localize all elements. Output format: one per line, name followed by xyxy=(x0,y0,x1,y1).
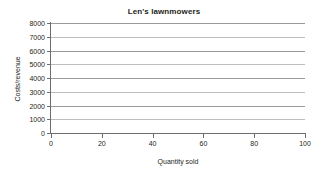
x-tick-mark-40 xyxy=(153,134,154,138)
x-tick-label-40: 40 xyxy=(138,140,168,147)
x-tick-label-20: 20 xyxy=(87,140,117,147)
x-tick-label-60: 60 xyxy=(188,140,218,147)
x-tick-mark-60 xyxy=(203,134,204,138)
chart-container: Len's lawnmowers Costs/revenue 8000 7000… xyxy=(0,0,328,179)
y-axis-line xyxy=(50,22,51,134)
x-tick-label-80: 80 xyxy=(239,140,269,147)
y-tick-label-2000: 2000 xyxy=(19,103,45,110)
gridline-3000 xyxy=(51,92,305,93)
gridline-1000 xyxy=(51,119,305,120)
x-axis-line xyxy=(50,133,306,134)
gridline-5000 xyxy=(51,64,305,65)
plot-area xyxy=(51,23,305,133)
x-tick-label-0: 0 xyxy=(36,140,66,147)
x-tick-mark-20 xyxy=(102,134,103,138)
x-tick-mark-100 xyxy=(305,134,306,138)
y-tick-label-8000: 8000 xyxy=(19,20,45,27)
gridline-6000 xyxy=(51,51,305,52)
gridline-7000 xyxy=(51,37,305,38)
x-tick-label-100: 100 xyxy=(290,140,320,147)
y-tick-label-7000: 7000 xyxy=(19,34,45,41)
y-tick-label-1000: 1000 xyxy=(19,116,45,123)
chart-title: Len's lawnmowers xyxy=(0,7,328,16)
y-tick-label-3000: 3000 xyxy=(19,89,45,96)
y-tick-label-4000: 4000 xyxy=(19,75,45,82)
gridline-4000 xyxy=(51,78,305,79)
x-axis-title: Quantity sold xyxy=(51,158,305,165)
y-tick-label-0: 0 xyxy=(19,130,45,137)
y-axis-tick-labels: 8000 7000 6000 5000 4000 3000 2000 1000 … xyxy=(17,0,45,179)
x-tick-mark-80 xyxy=(254,134,255,138)
gridline-8000 xyxy=(51,23,305,24)
y-tick-label-5000: 5000 xyxy=(19,61,45,68)
y-tick-label-6000: 6000 xyxy=(19,48,45,55)
x-tick-mark-0 xyxy=(51,134,52,138)
gridline-2000 xyxy=(51,106,305,107)
